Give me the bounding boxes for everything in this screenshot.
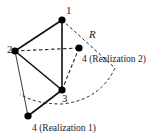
node-1-label: 1: [66, 4, 72, 16]
radius-arc: [20, 68, 115, 104]
node-1: [58, 16, 65, 23]
edge-3-4b: [62, 48, 79, 90]
node-3-label: 3: [62, 92, 68, 104]
node-2-label: 2: [7, 43, 13, 55]
realization-diagram: 1 2 3 4 (Realization 1) 4 (Realization 2…: [0, 0, 153, 140]
node-4-realization-1: [24, 112, 31, 119]
edge-1-2: [15, 20, 62, 51]
node-4-realization-2-label: 4 (Realization 2): [82, 54, 146, 65]
node-4-realization-2: [75, 44, 82, 51]
radius-label: R: [88, 28, 96, 40]
edge-2-4b: [15, 48, 79, 51]
node-4-realization-1-label: 4 (Realization 1): [32, 123, 96, 134]
edge-3-4a: [28, 90, 62, 116]
